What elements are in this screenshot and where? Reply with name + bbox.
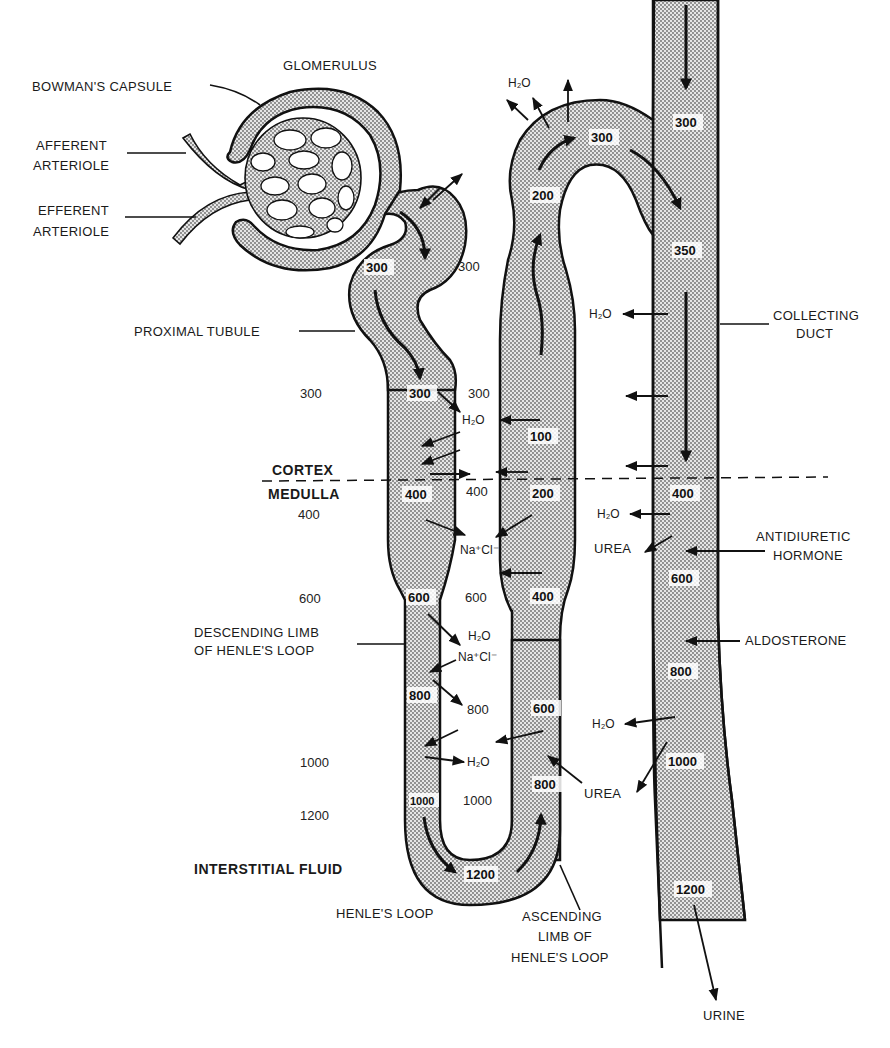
label-efferent-arteriole-2: ARTERIOLE (33, 224, 109, 239)
osmolarity-value: 300 (458, 259, 480, 274)
label-descending-limb-2: OF HENLE'S LOOP (194, 643, 314, 658)
water-label: H₂O (508, 76, 531, 90)
osmolarity-value: 600 (299, 591, 321, 606)
osmolarity-value: 800 (534, 777, 556, 792)
osmolarity-value: 400 (672, 486, 694, 501)
nephron-diagram: GLOMERULUS BOWMAN'S CAPSULE AFFERENT ART… (0, 0, 890, 1048)
osmolarity-value: 400 (405, 487, 427, 502)
osmolarity-value: 350 (674, 243, 696, 258)
osmolarity-value: 200 (532, 486, 554, 501)
osmolarity-value: 300 (300, 386, 322, 401)
osmolarity-value: 1000 (463, 793, 492, 808)
label-bowmans-capsule: BOWMAN'S CAPSULE (32, 79, 172, 94)
osmolarity-value: 100 (530, 429, 552, 444)
label-efferent-arteriole-1: EFFERENT (38, 203, 109, 218)
label-proximal-tubule: PROXIMAL TUBULE (134, 324, 260, 339)
osmolarity-value: 800 (467, 702, 489, 717)
osmolarity-value: 600 (671, 571, 693, 586)
osmolarity-value: 1200 (300, 808, 329, 823)
osmolarity-value: 400 (466, 484, 488, 499)
osmolarity-value: 1200 (676, 882, 705, 897)
collecting-duct (653, 0, 745, 968)
water-label: H₂O (597, 507, 620, 521)
glomerulus (173, 118, 361, 244)
label-ascending-limb-2: LIMB OF (538, 929, 592, 944)
label-glomerulus: GLOMERULUS (283, 58, 377, 73)
osmolarity-value: 400 (532, 589, 554, 604)
water-label: H₂O (467, 755, 490, 769)
label-afferent-arteriole-2: ARTERIOLE (33, 158, 109, 173)
nacl-label: Na⁺Cl⁻ (460, 543, 499, 557)
label-henles-loop: HENLE'S LOOP (336, 906, 434, 921)
osmolarity-value: 1000 (668, 754, 697, 769)
osmolarity-value: 300 (675, 115, 697, 130)
label-afferent-arteriole-1: AFFERENT (36, 138, 107, 153)
osmolarity-value: 300 (468, 386, 490, 401)
nacl-label: Na⁺Cl⁻ (458, 650, 497, 664)
label-interstitial-fluid: INTERSTITIAL FLUID (194, 861, 343, 877)
osmolarity-value: 1200 (466, 867, 495, 882)
osmolarity-value: 300 (366, 260, 388, 275)
water-label: H₂O (592, 717, 615, 731)
label-cortex: CORTEX (272, 462, 334, 478)
label-descending-limb-1: DESCENDING LIMB (194, 625, 319, 640)
label-ascending-limb-3: HENLE'S LOOP (511, 950, 609, 965)
osmolarity-value: 800 (409, 688, 431, 703)
water-label: H₂O (589, 307, 612, 321)
osmolarity-value: 600 (408, 590, 430, 605)
label-ascending-limb-1: ASCENDING (522, 909, 602, 924)
label-aldosterone: ALDOSTERONE (745, 633, 847, 648)
urea-label: UREA (594, 541, 631, 556)
osmolarity-value: 600 (465, 590, 487, 605)
osmolarity-value: 800 (670, 664, 692, 679)
label-urine: URINE (703, 1008, 745, 1023)
label-antidiuretic-hormone-2: HORMONE (773, 548, 843, 563)
label-medulla: MEDULLA (268, 486, 340, 502)
label-collecting-duct-1: COLLECTING (773, 308, 859, 323)
label-collecting-duct-2: DUCT (796, 326, 833, 341)
water-label: H₂O (462, 413, 485, 427)
osmolarity-value: 1000 (410, 795, 434, 807)
osmolarity-value: 600 (533, 701, 555, 716)
urea-label: UREA (584, 786, 621, 801)
osmolarity-value: 400 (298, 507, 320, 522)
label-antidiuretic-hormone-1: ANTIDIURETIC (756, 529, 851, 544)
osmolarity-value: 1000 (300, 755, 329, 770)
osmolarity-value: 200 (532, 188, 554, 203)
osmolarity-value: 300 (409, 386, 431, 401)
osmolarity-value: 300 (591, 130, 613, 145)
water-label: H₂O (468, 629, 491, 643)
